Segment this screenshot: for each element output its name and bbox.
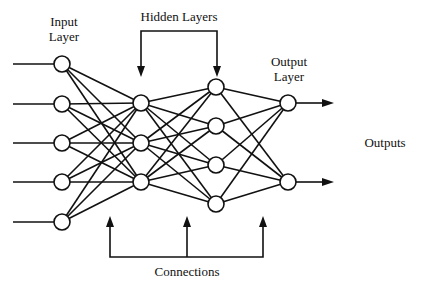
- connection-line: [62, 64, 141, 103]
- output-layer-label: Output Layer: [264, 54, 314, 84]
- connection-line: [62, 103, 141, 104]
- arrow-right-icon: [322, 99, 334, 107]
- input-node: [54, 96, 70, 112]
- arrow-down-icon: [137, 66, 145, 77]
- input-node: [54, 214, 70, 230]
- arrow-up-icon: [259, 216, 267, 227]
- arrow-right-icon: [322, 178, 334, 186]
- arrow-up-icon: [183, 216, 191, 227]
- hidden1-node: [133, 135, 149, 151]
- input-node: [54, 135, 70, 151]
- hidden2-node: [208, 79, 224, 95]
- output-layer-label-line1: Output: [264, 54, 314, 69]
- input-layer-label: Input Layer: [44, 14, 84, 44]
- hidden1-node: [133, 174, 149, 190]
- hidden-layers-label: Hidden Layers: [129, 9, 229, 24]
- connection-line: [62, 182, 141, 222]
- input-layer-label-line1: Input: [44, 14, 84, 29]
- connection-line: [216, 103, 288, 204]
- connection-lines: [62, 64, 288, 222]
- connection-line: [216, 182, 288, 204]
- output-node: [280, 174, 296, 190]
- connection-line: [62, 103, 141, 222]
- outputs-label: Outputs: [357, 135, 413, 150]
- hidden2-node: [208, 196, 224, 212]
- output-node: [280, 95, 296, 111]
- output-layer-label-line2: Layer: [264, 69, 314, 84]
- connections-label: Connections: [142, 264, 232, 279]
- connections-bracket: [106, 216, 267, 257]
- connection-line: [216, 103, 288, 126]
- neural-network-diagram: Input Layer Hidden Layers Output Layer O…: [0, 0, 438, 286]
- hidden1-node: [133, 95, 149, 111]
- arrow-down-icon: [213, 66, 221, 77]
- hidden2-node: [208, 157, 224, 173]
- input-node: [54, 56, 70, 72]
- hidden-layers-bracket: [137, 31, 221, 77]
- hidden2-node: [208, 118, 224, 134]
- input-layer-label-line2: Layer: [44, 29, 84, 44]
- connection-line: [141, 182, 216, 204]
- arrow-up-icon: [106, 216, 114, 227]
- input-node: [54, 174, 70, 190]
